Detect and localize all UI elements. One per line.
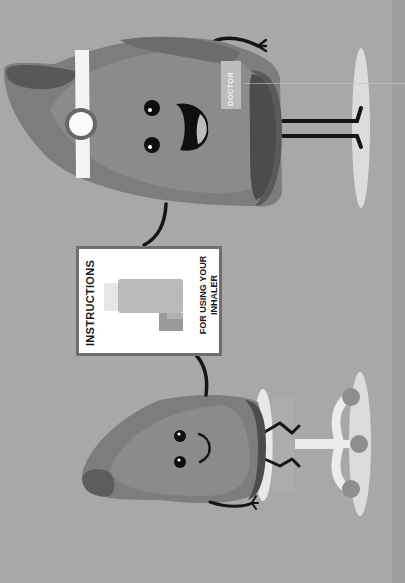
doctor-leg-2 xyxy=(283,136,361,147)
stool-wheel-2 xyxy=(350,435,368,453)
card-subtitle-line2: INHALER xyxy=(209,245,220,345)
stool-wheel-3 xyxy=(342,480,360,498)
illustration-canvas: INSTRUCTIONS FOR USING YOUR INHALER DOCT… xyxy=(0,0,405,583)
card-subtitle-line1: FOR USING YOUR xyxy=(198,245,209,345)
doctor-eye-2 xyxy=(144,137,160,153)
doctor-eye-1 xyxy=(144,100,160,116)
scan-artifact-line xyxy=(245,83,405,84)
doctor-floor-shadow xyxy=(352,48,370,208)
card-title: INSTRUCTIONS xyxy=(84,260,96,346)
card-subtitle: FOR USING YOUR INHALER xyxy=(198,245,220,345)
doctor-character xyxy=(4,37,370,245)
doctor-badge-label: DOCTOR xyxy=(226,72,235,106)
doctor-leg-1 xyxy=(283,108,361,121)
stool-wheel-1 xyxy=(342,388,360,406)
patient-character xyxy=(82,355,371,516)
